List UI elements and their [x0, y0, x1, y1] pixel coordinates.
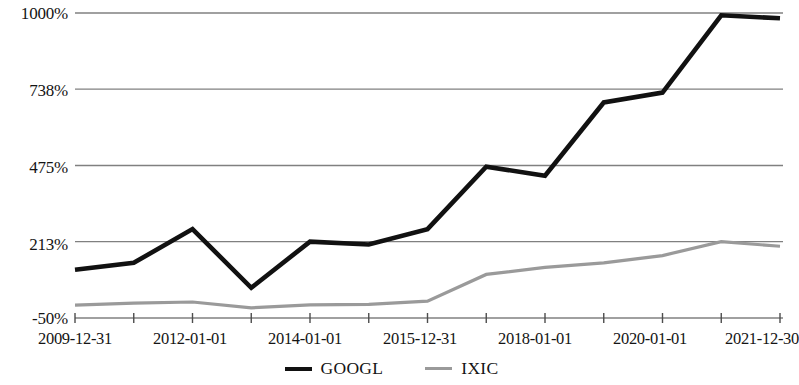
legend-line-icon-googl	[285, 367, 312, 371]
y-tick-label-475: 475%	[2, 158, 68, 178]
y-axis-labels: 1000% 738% 475% 213% -50%	[0, 0, 68, 340]
y-tick-label-213: 213%	[2, 235, 68, 255]
chart-legend: GOOGL IXIC	[0, 358, 783, 379]
series-googl	[75, 15, 780, 287]
legend-label-ixic: IXIC	[461, 358, 498, 379]
y-tick-label-738: 738%	[2, 81, 68, 101]
line-ixic	[75, 242, 780, 308]
legend-entry-ixic[interactable]: IXIC	[425, 358, 498, 379]
series-ixic	[75, 242, 780, 308]
legend-entry-googl[interactable]: GOOGL	[285, 358, 384, 379]
y-tick-label-minus50: -50%	[2, 309, 68, 329]
legend-line-icon-ixic	[425, 367, 452, 370]
gridlines	[75, 13, 783, 318]
y-tick-label-1000: 1000%	[2, 4, 68, 24]
legend-label-googl: GOOGL	[321, 358, 384, 379]
line-googl	[75, 15, 780, 287]
